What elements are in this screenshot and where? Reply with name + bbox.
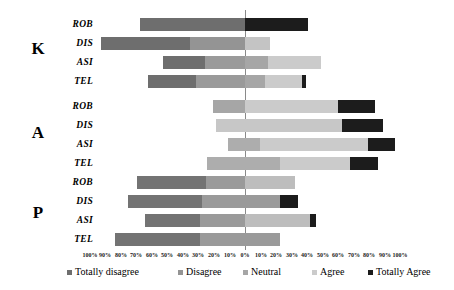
bar-segment-totally-agree [245, 18, 308, 31]
bar-segment-disagree [200, 214, 245, 227]
legend-label: Totally disagree [75, 266, 139, 278]
legend-item-agree[interactable]: Agree [312, 266, 344, 278]
bar-segment-totally-agree [302, 75, 306, 88]
bar-row: ROB [0, 100, 454, 113]
bar-segment-neutral [245, 37, 270, 50]
axis-tick-label: 50% [317, 251, 329, 259]
legend-swatch-icon [67, 270, 72, 275]
axis-tick-label: 80% [363, 251, 375, 259]
row-label-p-tel: TEL [47, 233, 93, 246]
chart-legend: Totally disagreeDisagreeNeutralAgreeTota… [0, 266, 454, 284]
axis-tick-label: 10% [255, 251, 267, 259]
bar-segment-totally-disagree [137, 176, 206, 189]
axis-tick-label: 80% [115, 251, 127, 259]
bar-row: TEL [0, 75, 454, 88]
bar-segment-neutral [228, 138, 260, 151]
axis-tick-label: 30% [286, 251, 298, 259]
bar-segment-totally-agree [342, 119, 383, 132]
bar-segment-disagree [196, 75, 245, 88]
row-label-p-dis: DIS [47, 195, 93, 208]
axis-tick-label: 0% [241, 251, 250, 259]
legend-item-disagree[interactable]: Disagree [178, 266, 222, 278]
bar-segment-agree [280, 157, 350, 170]
bar-segment-agree [260, 138, 368, 151]
legend-label: Agree [320, 266, 344, 278]
row-label-p-rob: ROB [47, 176, 93, 189]
legend-item-totally-agree[interactable]: Totally Agree [368, 266, 431, 278]
row-label-k-asi: ASI [47, 56, 93, 69]
legend-swatch-icon [243, 270, 248, 275]
bar-row: ASI [0, 214, 454, 227]
axis-tick-label: 90% [99, 251, 111, 259]
bar-row: TEL [0, 233, 454, 246]
bar-segment-neutral [213, 100, 245, 113]
row-label-a-tel: TEL [47, 157, 93, 170]
bar-segment-totally-disagree [128, 195, 202, 208]
row-label-k-dis: DIS [47, 37, 93, 50]
axis-tick-label: 20% [270, 251, 282, 259]
bar-segment-totally-agree [350, 157, 378, 170]
bar-row: TEL [0, 157, 454, 170]
bar-row: ASI [0, 56, 454, 69]
axis-tick-label: 60% [146, 251, 158, 259]
bar-row: DIS [0, 37, 454, 50]
row-label-a-dis: DIS [47, 119, 93, 132]
legend-label: Disagree [186, 266, 222, 278]
bar-segment-agree [265, 75, 302, 88]
legend-swatch-icon [368, 270, 373, 275]
row-label-k-rob: ROB [47, 18, 93, 31]
bar-segment-totally-disagree [148, 75, 196, 88]
x-axis-tick-labels: 100%90%80%70%60%50%40%30%20%10%0%10%20%3… [0, 251, 454, 263]
likert-diverging-bar-chart: KAP ROBDISASITELROBDISASITELROBDISASITEL… [0, 0, 454, 290]
bar-segment-neutral [245, 214, 310, 227]
legend-swatch-icon [178, 270, 183, 275]
bar-row: DIS [0, 195, 454, 208]
axis-tick-label: 20% [208, 251, 220, 259]
row-label-a-rob: ROB [47, 100, 93, 113]
plot-area: KAP ROBDISASITELROBDISASITELROBDISASITEL [0, 0, 454, 248]
axis-tick-label: 40% [177, 251, 189, 259]
bar-segment-totally-agree [280, 195, 298, 208]
bar-segment-neutral [245, 56, 268, 69]
bar-segment-totally-agree [368, 138, 395, 151]
axis-tick-label: 70% [348, 251, 360, 259]
legend-label: Totally Agree [376, 266, 431, 278]
bar-segment-agree [216, 119, 342, 132]
bar-segment-disagree [205, 56, 245, 69]
bar-row: DIS [0, 119, 454, 132]
legend-swatch-icon [312, 270, 317, 275]
bar-row: ROB [0, 176, 454, 189]
row-label-k-tel: TEL [47, 75, 93, 88]
axis-tick-label: 100% [393, 251, 408, 259]
bar-segment-disagree [190, 37, 245, 50]
bar-segment-neutral [245, 176, 295, 189]
bar-segment-totally-disagree [101, 37, 190, 50]
legend-label: Neutral [251, 266, 281, 278]
axis-tick-label: 40% [301, 251, 313, 259]
bar-segment-neutral [207, 157, 280, 170]
bar-segment-totally-agree [310, 214, 316, 227]
bar-segment-disagree [202, 195, 280, 208]
bar-segment-disagree [206, 176, 245, 189]
bar-row: ASI [0, 138, 454, 151]
legend-item-neutral[interactable]: Neutral [243, 266, 281, 278]
axis-tick-label: 10% [224, 251, 236, 259]
row-label-a-asi: ASI [47, 138, 93, 151]
bar-segment-totally-agree [338, 100, 375, 113]
bar-segment-totally-disagree [145, 214, 200, 227]
bar-segment-agree [245, 100, 338, 113]
axis-tick-label: 70% [130, 251, 142, 259]
bar-segment-totally-disagree [140, 18, 245, 31]
axis-tick-label: 90% [379, 251, 391, 259]
legend-item-totally-disagree[interactable]: Totally disagree [67, 266, 139, 278]
bar-segment-disagree [200, 233, 280, 246]
row-label-p-asi: ASI [47, 214, 93, 227]
axis-tick-label: 50% [161, 251, 173, 259]
axis-tick-label: 30% [192, 251, 204, 259]
axis-tick-label: 100% [83, 251, 98, 259]
bar-segment-neutral [245, 75, 265, 88]
bar-segment-agree [268, 56, 321, 69]
axis-tick-label: 60% [332, 251, 344, 259]
bar-row: ROB [0, 18, 454, 31]
bar-segment-totally-disagree [163, 56, 205, 69]
